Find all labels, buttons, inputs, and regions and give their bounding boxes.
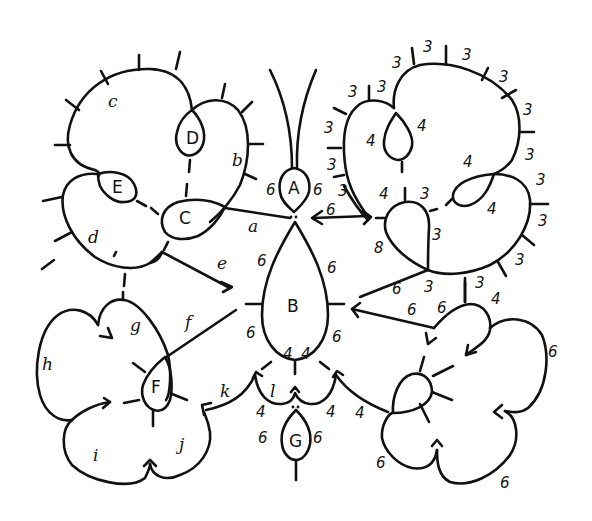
count-3: 3 [324, 119, 334, 137]
label-ring-A: A [288, 178, 300, 198]
count-4: 4 [491, 290, 501, 308]
count-3: 3 [423, 38, 433, 56]
label-chain-k: k [220, 381, 230, 401]
label-chain-d: d [88, 227, 99, 247]
count-4: 4 [417, 117, 427, 135]
count-3: 3 [424, 278, 434, 296]
chain-k [206, 375, 255, 410]
label-chain-l: l [270, 381, 275, 401]
chain-i [64, 420, 150, 484]
left-lower-flower: g h i j F [37, 274, 210, 484]
count-3: 3 [499, 68, 509, 86]
count-4: 4 [379, 185, 389, 203]
right-upper-motif: 3 3 3 3 3 3 3 3 3 3 3 3 3 3 3 3 4 4 4 4 … [312, 38, 548, 302]
right-lower-flower: 6 3 3 6 6 4 6 6 6 [352, 270, 558, 492]
count-4: 4 [487, 200, 497, 218]
count-3: 3 [462, 46, 472, 64]
count-3: 3 [377, 78, 387, 96]
label-chain-e: e [217, 253, 227, 273]
count-3: 3 [327, 156, 337, 174]
label-chain-b: b [232, 150, 243, 170]
count-6: 6 [376, 454, 386, 472]
count-A-left: 6 [266, 181, 276, 199]
count-4: 4 [366, 132, 376, 150]
count-l-outer: 4 [355, 404, 365, 422]
left-upper-motif: c b d a D C E [42, 52, 290, 269]
count-6: 6 [392, 280, 402, 298]
label-chain-h: h [42, 354, 53, 374]
count-3: 3 [538, 212, 548, 230]
count-l-right: 4 [326, 403, 336, 421]
label-chain-i: i [93, 445, 98, 465]
count-G-right: 6 [313, 429, 323, 447]
label-ring-G: G [289, 431, 302, 451]
count-6: 6 [326, 201, 336, 219]
label-ring-E: E [112, 177, 123, 197]
label-chain-g: g [130, 315, 141, 335]
count-3: 3 [523, 101, 533, 119]
count-6: 6 [500, 474, 510, 492]
count-3: 3 [432, 226, 442, 244]
chain-f [165, 310, 236, 358]
label-chain-j: j [175, 434, 185, 454]
count-B-lr: 6 [332, 328, 342, 346]
count-B-br: 4 [301, 345, 311, 363]
count-l-left: 4 [256, 403, 266, 421]
count-6: 6 [407, 301, 417, 319]
label-ring-D: D [186, 128, 199, 148]
count-6: 6 [548, 343, 558, 361]
count-B-ur: 6 [327, 259, 337, 277]
count-A-right: 6 [313, 181, 323, 199]
chain-c [68, 69, 192, 176]
ring-B [262, 222, 328, 360]
label-chain-c: c [108, 91, 118, 111]
label-chain-a: a [248, 216, 258, 236]
count-3: 3 [536, 171, 546, 189]
count-B-bl: 4 [283, 345, 293, 363]
count-4: 4 [463, 153, 473, 171]
label-chain-f: f [183, 312, 194, 332]
count-3: 3 [515, 251, 525, 269]
count-3: 3 [392, 54, 402, 72]
label-ring-F: F [151, 377, 161, 397]
count-3: 3 [525, 146, 535, 164]
count-6: 6 [437, 299, 447, 317]
count-B-ul: 6 [257, 252, 267, 270]
count-3: 3 [475, 274, 485, 292]
count-B-ll: 6 [246, 324, 256, 342]
label-ring-B: B [287, 296, 299, 316]
count-3: 3 [348, 83, 358, 101]
count-3: 3 [338, 182, 348, 200]
count-G-left: 6 [258, 429, 268, 447]
count-8: 8 [374, 239, 384, 257]
label-ring-C: C [179, 208, 191, 228]
count-3: 3 [420, 185, 430, 203]
ring-C [162, 200, 225, 239]
tatting-diagram: c b d a D C E [0, 0, 592, 521]
